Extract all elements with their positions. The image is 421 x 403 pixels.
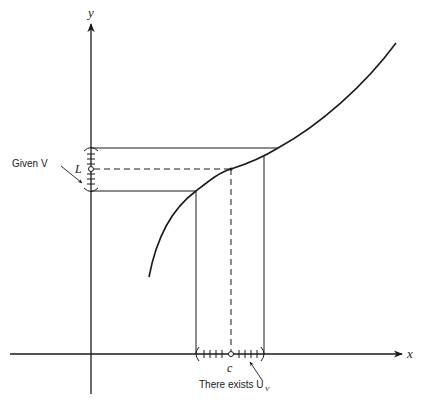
x-axis-label: x (406, 346, 413, 361)
point-L (89, 167, 94, 172)
there-exists-arrow (250, 362, 262, 380)
point-c (229, 352, 234, 357)
point-c-l (229, 167, 232, 170)
label-c: c (227, 361, 233, 375)
diagram-canvas: y x L Given V (0, 0, 421, 403)
label-there-exists: There exists U (199, 379, 263, 390)
label-there-exists-subscript: V (265, 385, 270, 393)
label-given-v: Given V (12, 158, 48, 169)
function-curve (149, 43, 396, 277)
limit-diagram: y x L Given V (0, 0, 421, 403)
y-axis-label: y (86, 5, 94, 20)
label-L: L (74, 162, 82, 176)
